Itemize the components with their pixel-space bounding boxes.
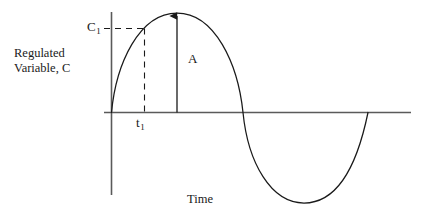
t1-label-subscript: 1 <box>140 122 145 132</box>
y-axis-label-line2: Variable, C <box>14 61 70 76</box>
x-axis-label: Time <box>187 192 213 207</box>
c1-label-base: C <box>87 19 96 34</box>
c1-label: C1 <box>87 19 101 34</box>
sine-wave-figure: Regulated Variable, C Time C1 t1 A <box>0 0 426 221</box>
amplitude-label: A <box>188 51 197 66</box>
y-axis-label: Regulated Variable, C <box>14 46 70 76</box>
y-axis-label-line1: Regulated <box>14 46 65 60</box>
sine-curve <box>112 13 369 203</box>
t1-label: t1 <box>136 115 145 130</box>
plot-canvas <box>0 0 426 221</box>
c1-label-subscript: 1 <box>96 26 101 36</box>
